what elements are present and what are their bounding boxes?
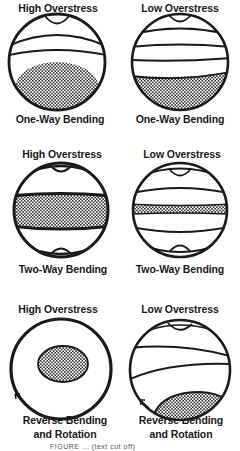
panel-5-circle (11, 319, 111, 419)
panel-2-circle (130, 14, 230, 120)
bending-diagram (0, 0, 240, 451)
figure-caption: FIGURE ... (text cut off) (50, 443, 136, 450)
panel-3-circle (10, 163, 112, 257)
panel-6-circle (130, 320, 232, 422)
panel-4-circle (130, 163, 230, 257)
panel-1-circle (8, 14, 106, 114)
